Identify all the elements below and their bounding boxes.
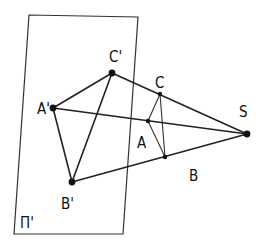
point-C <box>158 92 162 96</box>
projection-diagram: SABCA'B'C' Π' <box>0 0 265 247</box>
point-C-prime <box>109 70 116 77</box>
segment-Ap-Cp <box>53 73 112 108</box>
label-B-prime: B' <box>61 195 74 213</box>
segment-S-Bp <box>72 134 247 182</box>
segment-A-C <box>148 94 160 121</box>
segment-Bp-Cp <box>72 73 112 182</box>
label-S: S <box>239 103 248 121</box>
point-B <box>163 155 167 159</box>
segments-group <box>53 73 247 182</box>
point-A <box>146 119 150 123</box>
plane-label: Π' <box>20 214 34 232</box>
label-C: C <box>155 74 164 92</box>
label-A: A <box>137 134 147 152</box>
points-group <box>50 70 251 186</box>
point-B-prime <box>69 179 76 186</box>
label-A-prime: A' <box>37 100 50 118</box>
label-C-prime: C' <box>109 48 122 66</box>
point-A-prime <box>50 105 57 112</box>
segment-Ap-Bp <box>53 108 72 182</box>
point-S <box>244 131 251 138</box>
label-B: B <box>189 167 198 185</box>
